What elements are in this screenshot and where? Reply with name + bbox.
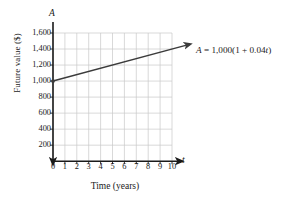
equation-suffix: ) (268, 45, 271, 55)
x-axis-tick-labels: 012345678910 (0, 0, 301, 200)
equation-body: = 1,000(1 + 0.04 (202, 45, 266, 55)
x-tick-label: 10 (164, 163, 180, 171)
equation-annotation: A = 1,000(1 + 0.04t) (196, 45, 271, 55)
chart-figure: Future value ($) Time (years) A t 200400… (0, 0, 301, 200)
